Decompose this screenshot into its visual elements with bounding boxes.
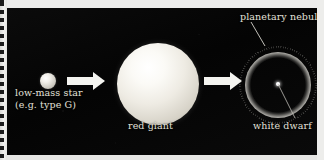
binding-mark [0, 66, 4, 70]
binding-mark [0, 90, 4, 94]
binding-mark [0, 10, 4, 14]
label-low-mass-star-line1: low-mass star [15, 87, 83, 99]
arrow-giant-to-nebula [204, 72, 242, 90]
diagram-panel: low-mass star (e.g. type G) red giant pl… [7, 8, 317, 155]
binding-mark [0, 50, 4, 54]
planetary-nebula-group [239, 46, 317, 124]
binding-mark [0, 82, 4, 86]
binding-mark [0, 106, 4, 110]
label-red-giant: red giant [128, 120, 173, 132]
binding-mark [0, 0, 4, 4]
binding-mark [0, 154, 4, 158]
arrow-shaft [204, 77, 230, 85]
label-low-mass-star-line2: (e.g. type G) [15, 99, 83, 111]
binding-mark [0, 114, 4, 118]
scan-bottom-margin [7, 155, 324, 160]
label-white-dwarf: white dwarf [253, 120, 312, 132]
binding-mark [0, 122, 4, 126]
binding-mark [0, 130, 4, 134]
label-low-mass-star: low-mass star (e.g. type G) [15, 87, 83, 110]
leader-line-planetary-nebula [251, 22, 265, 46]
scan-right-margin [317, 0, 324, 160]
arrow-shaft [67, 77, 93, 85]
figure-page: low-mass star (e.g. type G) red giant pl… [0, 0, 324, 160]
binding-mark [0, 146, 4, 150]
binding-mark [0, 34, 4, 38]
arrow-head [93, 72, 105, 90]
scan-left-margin [0, 0, 7, 160]
binding-mark [0, 98, 4, 102]
binding-mark [0, 138, 4, 142]
binding-mark [0, 74, 4, 78]
label-planetary-nebula: planetary nebula [240, 11, 317, 23]
binding-mark [0, 42, 4, 46]
red-giant-sphere [117, 43, 199, 125]
binding-mark [0, 18, 4, 22]
scan-top-margin [7, 0, 324, 8]
binding-mark [0, 26, 4, 30]
white-dwarf-dot [276, 82, 280, 86]
binding-mark [0, 58, 4, 62]
